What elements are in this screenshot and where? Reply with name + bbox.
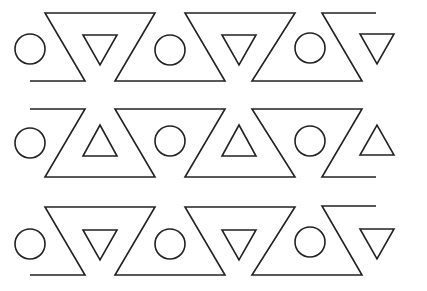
circle-shape [295, 33, 325, 63]
circle-shape [295, 126, 325, 156]
triangle-up-shape [222, 125, 256, 156]
triangle-up-shape [83, 125, 117, 156]
triangle-down-shape [83, 230, 117, 260]
triangle-up-shape [360, 125, 394, 155]
circle-shape [15, 34, 45, 64]
triangle-down-shape [360, 229, 394, 259]
circle-shape [155, 35, 185, 65]
zigzag-line [30, 13, 376, 81]
circle-shape [15, 229, 45, 259]
triangle-down-shape [83, 35, 117, 65]
circle-shape [15, 128, 45, 158]
row-3 [15, 206, 394, 275]
circle-shape [155, 229, 185, 259]
triangle-down-shape [222, 230, 256, 260]
triangle-down-shape [360, 34, 394, 64]
triangle-down-shape [222, 35, 256, 65]
row-2 [15, 109, 394, 177]
circle-shape [295, 227, 325, 257]
circle-shape [155, 126, 185, 156]
geometric-pattern [0, 0, 427, 291]
row-1 [15, 13, 394, 81]
zigzag-line [30, 206, 376, 275]
